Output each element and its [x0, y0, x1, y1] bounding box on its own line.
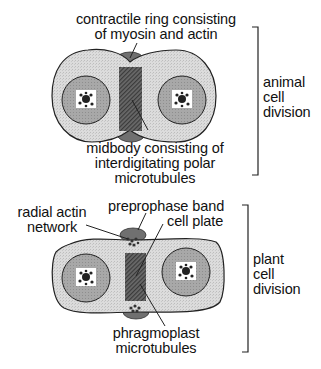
- label-cell-plate: cell plate: [167, 214, 223, 229]
- label-line: cell plate: [167, 214, 223, 229]
- label-line: animal: [263, 75, 311, 90]
- label-line: microtubules: [113, 341, 200, 356]
- label-line: contractile ring consisting: [76, 12, 236, 27]
- label-plant-cell-division: plant cell division: [253, 252, 301, 297]
- label-line: division: [263, 105, 311, 120]
- label-line: plant: [253, 252, 301, 267]
- label-line: interdigitating polar: [86, 156, 223, 171]
- leader-preprophase-band: [138, 213, 146, 230]
- animal-bracket: [252, 27, 258, 175]
- label-line: phragmoplast: [113, 326, 200, 341]
- label-line: of myosin and actin: [76, 27, 236, 42]
- label-radial-actin-network: radial actin network: [18, 205, 87, 235]
- label-line: division: [253, 282, 301, 297]
- label-line: preprophase band: [108, 199, 224, 214]
- label-contractile-ring: contractile ring consisting of myosin an…: [76, 12, 236, 42]
- label-animal-cell-division: animal cell division: [263, 75, 311, 120]
- midbody: [119, 67, 142, 131]
- label-midbody: midbody consisting of interdigitating po…: [86, 141, 223, 186]
- label-line: network: [18, 220, 87, 235]
- label-line: microtubules: [86, 171, 223, 186]
- label-phragmoplast: phragmoplast microtubules: [113, 326, 200, 356]
- label-line: radial actin: [18, 205, 87, 220]
- label-preprophase-band: preprophase band: [108, 199, 224, 214]
- label-line: cell: [263, 90, 311, 105]
- label-line: midbody consisting of: [86, 141, 223, 156]
- label-line: cell: [253, 267, 301, 282]
- plant-bracket: [242, 205, 248, 352]
- cell-plate: [125, 253, 146, 301]
